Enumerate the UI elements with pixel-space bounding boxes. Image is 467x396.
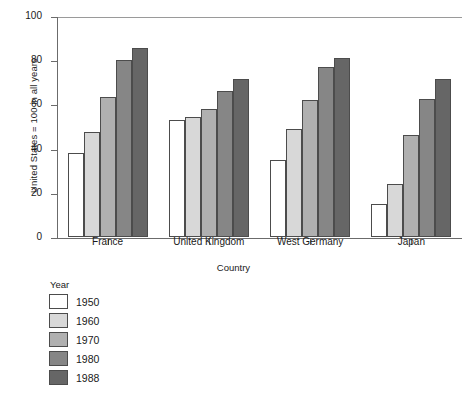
y-tick: 20: [51, 194, 57, 195]
y-tick: 40: [51, 150, 57, 151]
legend-label: 1960: [76, 315, 99, 327]
bar: [302, 100, 318, 237]
legend-swatch: [49, 313, 68, 328]
y-tick-label: 20: [31, 187, 42, 198]
y-tick: 80: [51, 61, 57, 62]
legend-item: 1980: [49, 349, 99, 368]
y-tick-label: 100: [25, 10, 42, 21]
y-tick-label: 60: [31, 98, 42, 109]
y-axis-line: [57, 17, 58, 239]
bar: [116, 60, 132, 237]
legend-label: 1980: [76, 353, 99, 365]
legend-entries: 19501960197019801988: [49, 292, 99, 387]
legend-item: 1960: [49, 311, 99, 330]
x-axis-category-label: United Kingdom: [173, 236, 244, 247]
legend-item: 1970: [49, 330, 99, 349]
bar: [201, 109, 217, 237]
bar: [371, 204, 387, 237]
x-axis-title: Country: [0, 262, 467, 273]
bar: [435, 79, 451, 237]
y-tick-label: 0: [36, 231, 42, 242]
bar: [84, 132, 100, 237]
plot-frame-top: [57, 17, 462, 18]
bar: [318, 67, 334, 237]
legend-title: Year: [50, 279, 99, 290]
bar: [334, 58, 350, 237]
bar: [100, 97, 116, 237]
bar: [270, 160, 286, 237]
legend-item: 1950: [49, 292, 99, 311]
bar: [419, 99, 435, 237]
legend-swatch: [49, 332, 68, 347]
legend-label: 1988: [76, 372, 99, 384]
bar: [387, 184, 403, 237]
legend-item: 1988: [49, 368, 99, 387]
y-tick: 0: [51, 238, 57, 239]
y-tick: 60: [51, 105, 57, 106]
legend: Year 19501960197019801988: [49, 279, 99, 387]
y-tick-label: 40: [31, 143, 42, 154]
bar: [403, 135, 419, 237]
x-axis-category-label: West Germany: [277, 236, 344, 247]
bar-chart: United States = 100 in all years 0204060…: [0, 0, 467, 396]
bar: [233, 79, 249, 237]
bar: [286, 129, 302, 237]
bar: [217, 91, 233, 237]
legend-swatch: [49, 294, 68, 309]
legend-swatch: [49, 351, 68, 366]
plot-area: 020406080100: [57, 17, 462, 238]
x-axis-category-label: France: [92, 236, 123, 247]
bar: [68, 153, 84, 237]
legend-swatch: [49, 370, 68, 385]
y-tick: 100: [51, 17, 57, 18]
legend-label: 1970: [76, 334, 99, 346]
bar: [169, 120, 185, 237]
legend-label: 1950: [76, 296, 99, 308]
bar: [132, 48, 148, 237]
bar: [185, 117, 201, 237]
y-tick-label: 80: [31, 54, 42, 65]
x-axis-category-label: Japan: [398, 236, 425, 247]
